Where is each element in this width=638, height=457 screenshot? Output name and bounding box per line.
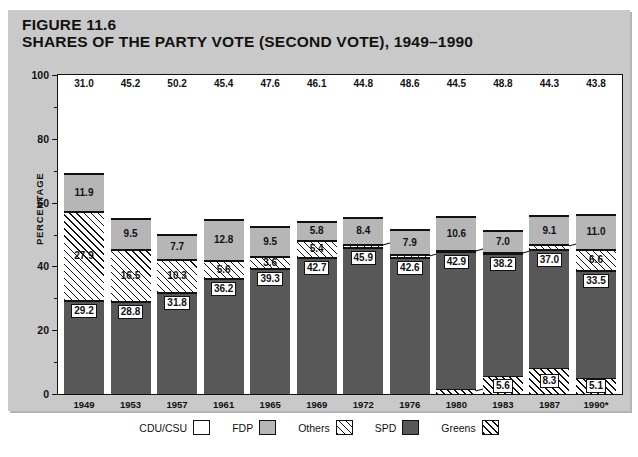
legend-item-spd: SPD <box>375 420 420 435</box>
segment-cdu-csu-1953: 45.2 <box>111 75 151 219</box>
value-label: 47.6 <box>259 79 280 89</box>
value-label: 39.3 <box>257 272 282 286</box>
segment-fdp-1953: 9.5 <box>111 219 151 249</box>
value-label: 5.6 <box>216 265 232 275</box>
x-axis-tick-label: 1949 <box>73 399 94 410</box>
value-label: 44.3 <box>539 79 560 89</box>
value-label: 5.1 <box>586 379 606 393</box>
value-label: 31.0 <box>73 79 94 89</box>
dark-gray-swatch-icon <box>402 420 419 435</box>
bar-1990: 5.133.56.611.043.8 <box>576 75 616 394</box>
x-axis-tick-label: 1983 <box>492 399 513 410</box>
segment-others-1990: 6.6 <box>576 250 616 271</box>
value-label: 45.9 <box>351 251 376 265</box>
value-label: 33.5 <box>583 274 608 288</box>
value-label: 5.4 <box>309 244 325 254</box>
white-swatch-icon <box>193 420 210 435</box>
figure-title: SHARES OF THE PARTY VOTE (SECOND VOTE), … <box>22 33 582 50</box>
light-hatch-swatch-icon <box>336 420 353 435</box>
y-axis-minor-tick <box>54 107 57 108</box>
value-label: 9.1 <box>542 226 558 236</box>
x-axis-tick-label: 1980 <box>446 399 467 410</box>
segment-others-1961: 5.6 <box>204 261 244 279</box>
value-label: 50.2 <box>166 79 187 89</box>
x-axis-tick-label: 1965 <box>260 399 281 410</box>
value-label: 11.9 <box>74 188 95 198</box>
value-label: 45.2 <box>120 79 141 89</box>
value-label: 10.6 <box>446 229 467 239</box>
segment-fdp-1980: 10.6 <box>436 217 476 251</box>
segment-greens-1990: 5.1 <box>576 378 616 394</box>
segment-spd-1957: 31.8 <box>157 293 197 394</box>
dense-hatch-swatch-icon <box>482 420 499 435</box>
segment-cdu-csu-1957: 50.2 <box>157 75 197 235</box>
legend-item-cdu-csu: CDU/CSU <box>139 420 210 435</box>
y-axis-tick-label: 20 <box>9 324 49 336</box>
value-label: 36.2 <box>211 282 236 296</box>
y-axis-major-tick <box>52 75 57 76</box>
bar-1953: 28.816.59.545.2 <box>111 75 151 394</box>
segment-cdu-csu-1990: 43.8 <box>576 75 616 215</box>
plot-area: PERCENTAGE 29.227.911.931.028.816.59.545… <box>57 74 623 395</box>
bar-1983: 5.638.27.048.8 <box>483 75 523 394</box>
segment-greens-1980 <box>436 389 476 394</box>
x-axis-tick-label: 1972 <box>353 399 374 410</box>
segment-spd-1972: 45.9 <box>343 248 383 394</box>
y-axis-minor-tick <box>54 171 57 172</box>
value-label: 16.5 <box>120 271 141 281</box>
value-label: 46.1 <box>306 79 327 89</box>
value-label: 38.2 <box>490 257 515 271</box>
value-label: 48.8 <box>492 79 513 89</box>
legend-label-cdu-csu: CDU/CSU <box>139 422 187 434</box>
y-axis-tick-label: 100 <box>9 69 49 81</box>
segment-others-1953: 16.5 <box>111 250 151 303</box>
segment-cdu-csu-1987: 44.3 <box>529 75 569 216</box>
y-axis-major-tick <box>52 394 57 395</box>
segment-spd-1976: 42.6 <box>390 258 430 394</box>
x-axis-tick-label: 1961 <box>213 399 234 410</box>
segment-spd-1987: 37.0 <box>529 250 569 368</box>
value-label: 42.6 <box>397 261 422 275</box>
bar-1980: 42.910.644.5 <box>436 75 476 394</box>
segment-spd-1953: 28.8 <box>111 302 151 394</box>
segment-spd-1949: 29.2 <box>64 301 104 394</box>
y-axis-tick-label: 60 <box>9 197 49 209</box>
bar-1972: 45.98.444.8 <box>343 75 383 394</box>
legend-label-greens: Greens <box>441 422 475 434</box>
value-label: 8.3 <box>540 374 560 388</box>
legend-label-fdp: FDP <box>232 422 253 434</box>
segment-spd-1965: 39.3 <box>250 269 290 394</box>
segment-cdu-csu-1965: 47.6 <box>250 75 290 227</box>
y-axis-minor-tick <box>54 298 57 299</box>
bar-1965: 39.33.69.547.6 <box>250 75 290 394</box>
segment-fdp-1961: 12.8 <box>204 220 244 261</box>
value-label: 27.9 <box>73 251 94 261</box>
value-label: 42.7 <box>304 261 329 275</box>
value-label: 43.8 <box>585 79 606 89</box>
value-label: 7.7 <box>169 242 185 252</box>
legend-label-spd: SPD <box>375 422 397 434</box>
value-label: 44.5 <box>446 79 467 89</box>
segment-fdp-1965: 9.5 <box>250 227 290 257</box>
segment-others-1976 <box>390 255 430 258</box>
value-label: 12.8 <box>213 235 234 245</box>
value-label: 29.2 <box>71 304 96 318</box>
value-label: 11.0 <box>586 227 607 237</box>
figure-number: FIGURE 11.6 <box>22 16 582 33</box>
segment-others-1969: 5.4 <box>297 241 337 258</box>
value-label: 8.4 <box>355 226 371 236</box>
figure-title-block: FIGURE 11.6 SHARES OF THE PARTY VOTE (SE… <box>22 16 582 51</box>
value-label: 28.8 <box>118 305 143 319</box>
segment-fdp-1983: 7.0 <box>483 231 523 253</box>
segment-fdp-1990: 11.0 <box>576 215 616 250</box>
segment-spd-1990: 33.5 <box>576 271 616 378</box>
segment-spd-1983: 38.2 <box>483 254 523 376</box>
segment-fdp-1972: 8.4 <box>343 218 383 245</box>
y-axis-major-tick <box>52 266 57 267</box>
segment-spd-1969: 42.7 <box>297 258 337 394</box>
chart-legend: CDU/CSU FDP Others SPD Greens <box>0 420 638 435</box>
segment-fdp-1949: 11.9 <box>64 174 104 212</box>
segment-greens-1983: 5.6 <box>483 376 523 394</box>
segment-others-1972 <box>343 245 383 248</box>
y-axis-minor-tick <box>54 362 57 363</box>
